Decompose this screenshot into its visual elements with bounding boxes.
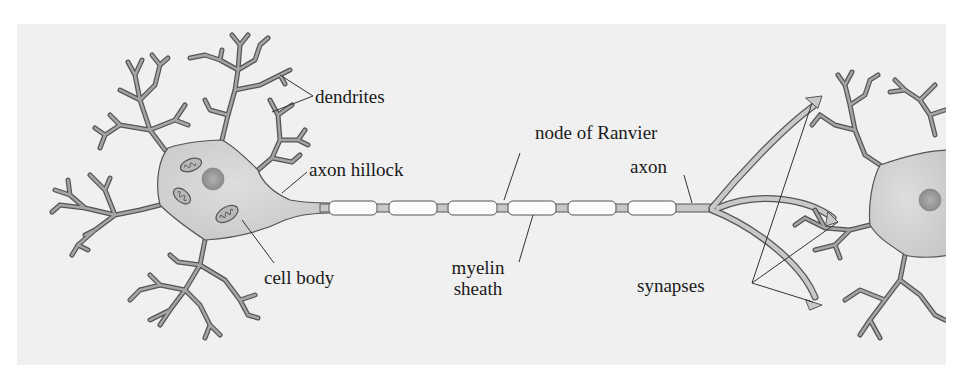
label-sheath-line2: sheath: [448, 278, 508, 299]
label-dendrites: dendrites: [315, 87, 385, 106]
diagram-panel: [17, 24, 946, 365]
label-myelin-line1: myelin: [448, 257, 508, 278]
label-axon-hillock: axon hillock: [309, 160, 403, 179]
label-cell-body: cell body: [264, 268, 334, 287]
label-node-of-ranvier: node of Ranvier: [535, 123, 657, 142]
label-myelin-sheath: myelin sheath: [448, 257, 508, 299]
label-axon: axon: [630, 157, 667, 176]
label-synapses: synapses: [637, 276, 705, 295]
